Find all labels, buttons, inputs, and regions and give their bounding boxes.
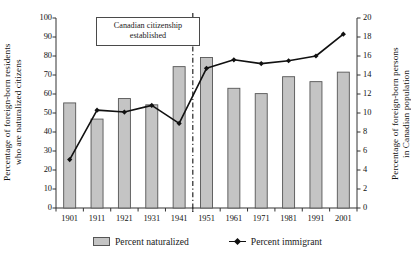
line-diamond-icon — [229, 238, 246, 245]
chart-figure: Percentage of foreign-born residents who… — [0, 0, 415, 260]
legend-item-naturalized[interactable]: Percent naturalized — [93, 236, 189, 247]
y-tick-label-right-0: 0 — [363, 203, 383, 212]
bar-1951[interactable] — [201, 58, 213, 208]
bar-swatch-icon — [93, 237, 110, 246]
y-tick-label-right-12: 12 — [363, 89, 383, 98]
annotation-line-1: Canadian citizenship — [99, 21, 197, 31]
y-tick-label-left-0: 0 — [24, 203, 52, 212]
y-tick-label-left-40: 40 — [24, 127, 52, 136]
y-tick-label-right-6: 6 — [363, 146, 383, 155]
line-marker-1981[interactable] — [286, 58, 291, 63]
bar-1931[interactable] — [146, 105, 158, 208]
y-tick-label-left-50: 50 — [24, 108, 52, 117]
bar-2001[interactable] — [337, 72, 349, 208]
y-tick-label-left-100: 100 — [24, 13, 52, 22]
y-tick-label-left-80: 80 — [24, 51, 52, 60]
legend-label-immigrant: Percent immigrant — [251, 236, 322, 247]
y-tick-label-right-18: 18 — [363, 32, 383, 41]
y-tick-label-right-16: 16 — [363, 51, 383, 60]
y-tick-label-right-2: 2 — [363, 184, 383, 193]
bar-1911[interactable] — [91, 119, 103, 208]
bar-1921[interactable] — [118, 99, 130, 208]
line-marker-1971[interactable] — [259, 61, 264, 66]
y-tick-label-left-10: 10 — [24, 184, 52, 193]
bar-1941[interactable] — [173, 67, 185, 208]
y-tick-label-right-4: 4 — [363, 165, 383, 174]
y-tick-label-right-10: 10 — [363, 108, 383, 117]
bar-1981[interactable] — [283, 77, 295, 208]
bar-1961[interactable] — [228, 88, 240, 208]
y-tick-label-left-90: 90 — [24, 32, 52, 41]
y-tick-label-left-20: 20 — [24, 165, 52, 174]
annotation-canadian-citizenship: Canadian citizenship established — [96, 17, 200, 46]
y-tick-label-left-70: 70 — [24, 70, 52, 79]
y-tick-label-right-14: 14 — [363, 70, 383, 79]
legend-label-naturalized: Percent naturalized — [115, 236, 189, 247]
y-tick-label-left-30: 30 — [24, 146, 52, 155]
y-tick-label-right-20: 20 — [363, 13, 383, 22]
annotation-line-2: established — [99, 31, 197, 41]
y-tick-label-right-8: 8 — [363, 127, 383, 136]
bar-1991[interactable] — [310, 82, 322, 208]
bar-1901[interactable] — [64, 103, 76, 208]
y-tick-label-left-60: 60 — [24, 89, 52, 98]
line-marker-1961[interactable] — [231, 57, 236, 62]
x-tick-label-2001: 2001 — [326, 214, 360, 223]
chart-legend: Percent naturalized Percent immigrant — [0, 236, 415, 247]
legend-item-immigrant[interactable]: Percent immigrant — [229, 236, 322, 247]
bar-1971[interactable] — [255, 94, 267, 208]
